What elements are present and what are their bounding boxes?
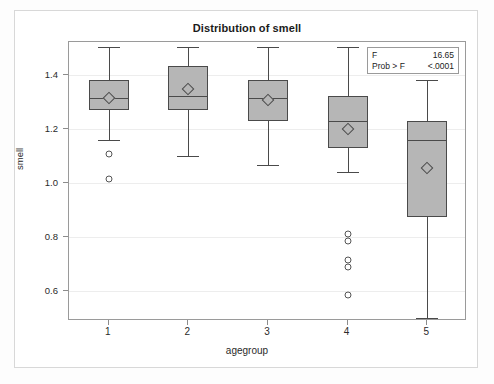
anova-stats-box: F16.65Prob > F<.0001	[367, 47, 459, 74]
x-tick-mark	[426, 320, 427, 325]
y-gridline	[69, 129, 465, 130]
y-axis-label: smell	[14, 148, 25, 170]
x-tick-label: 1	[88, 326, 128, 337]
whisker-cap-lower	[416, 318, 438, 319]
whisker-cap-upper	[98, 47, 120, 48]
x-axis-label: agegroup	[0, 345, 494, 356]
y-tick-label: 1.2	[18, 122, 58, 133]
y-tick-label: 1.4	[18, 68, 58, 79]
y-gridline	[69, 237, 465, 238]
whisker-cap-upper	[416, 80, 438, 81]
y-tick-label: 0.6	[18, 285, 58, 296]
stats-row: Prob > F<.0001	[372, 61, 454, 72]
whisker-cap-lower	[98, 140, 120, 141]
y-tick-mark	[63, 128, 68, 129]
whisker-cap-upper	[177, 47, 199, 48]
x-tick-mark	[347, 320, 348, 325]
y-gridline	[69, 291, 465, 292]
outlier-point	[344, 263, 351, 270]
x-tick-label: 4	[327, 326, 367, 337]
x-tick-mark	[108, 320, 109, 325]
y-gridline	[69, 75, 465, 76]
whisker-cap-lower	[177, 156, 199, 157]
stats-row: F16.65	[372, 50, 454, 61]
outlier-point	[344, 238, 351, 245]
plot-area: F16.65Prob > F<.0001	[68, 41, 466, 320]
x-tick-label: 5	[406, 326, 446, 337]
stats-key: F	[372, 50, 424, 61]
page-title: Distribution of smell	[0, 22, 494, 34]
outlier-point	[105, 151, 112, 158]
x-tick-mark	[187, 320, 188, 325]
y-tick-mark	[63, 182, 68, 183]
whisker-cap-upper	[337, 47, 359, 48]
stats-key: Prob > F	[372, 61, 424, 72]
median-line	[407, 140, 447, 141]
chart-canvas: Distribution of smell smell agegroup F16…	[0, 0, 494, 384]
y-tick-mark	[63, 74, 68, 75]
stats-value: 16.65	[424, 50, 454, 61]
outlier-point	[344, 292, 351, 299]
stats-value: <.0001	[424, 61, 454, 72]
y-tick-label: 1.0	[18, 176, 58, 187]
y-tick-mark	[63, 290, 68, 291]
y-tick-label: 0.8	[18, 231, 58, 242]
x-tick-label: 2	[167, 326, 207, 337]
whisker-cap-lower	[337, 172, 359, 173]
whisker-cap-upper	[257, 47, 279, 48]
x-tick-label: 3	[247, 326, 287, 337]
y-gridline	[69, 183, 465, 184]
outlier-point	[105, 175, 112, 182]
x-tick-mark	[267, 320, 268, 325]
y-tick-mark	[63, 236, 68, 237]
median-line	[168, 96, 208, 97]
whisker-cap-lower	[257, 165, 279, 166]
